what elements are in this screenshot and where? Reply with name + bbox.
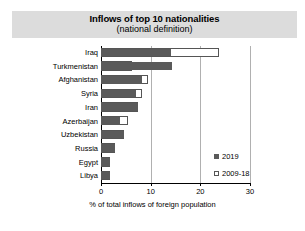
chart-subtitle: (national definition): [116, 25, 192, 34]
bar-2019: [101, 76, 142, 84]
x-tick-label: 10: [139, 187, 163, 196]
bar-2019: [101, 49, 171, 57]
category-label: Afghanistan: [8, 73, 98, 87]
legend-label: 2009-18: [222, 169, 250, 178]
category-label: Iraq: [8, 46, 98, 60]
x-axis-title: % of total inflows of foreign population: [0, 200, 305, 209]
plot-wrapper: IraqTurkmenistanAfghanistanSyriaIranAzer…: [0, 42, 305, 231]
x-tick-mark: [101, 183, 102, 186]
chart-title: Inflows of top 10 nationalities: [90, 14, 220, 24]
bar-row: [101, 46, 250, 60]
bar-2019: [101, 62, 172, 70]
x-tick-mark: [151, 183, 152, 186]
legend-label: 2019: [222, 152, 239, 161]
gridline: [250, 46, 251, 183]
legend-item: 2019: [214, 151, 250, 162]
bar-row: [101, 60, 250, 74]
bar-2019: [101, 131, 124, 139]
category-label: Russia: [8, 142, 98, 156]
chart-figure: Inflows of top 10 nationalities (nationa…: [0, 0, 305, 231]
bar-row: [101, 87, 250, 101]
bar-row: [101, 128, 250, 142]
legend-swatch-icon: [214, 154, 219, 159]
x-tick-label: 30: [238, 187, 262, 196]
chart-legend: 20192009-18: [214, 151, 250, 185]
legend-swatch-icon: [214, 171, 219, 176]
category-label: Turkmenistan: [8, 60, 98, 74]
bar-2019: [101, 172, 110, 180]
bar-row: [101, 73, 250, 87]
category-label: Syria: [8, 87, 98, 101]
x-tick-mark: [250, 183, 251, 186]
bar-2019: [101, 158, 110, 166]
bar-row: [101, 115, 250, 129]
bar-2019: [101, 103, 138, 111]
category-label: Azerbaijan: [8, 115, 98, 129]
bar-2019: [101, 144, 115, 152]
x-tick-mark: [200, 183, 201, 186]
category-label: Uzbekistan: [8, 128, 98, 142]
bar-row: [101, 101, 250, 115]
category-label: Libya: [8, 169, 98, 183]
x-tick-label: 20: [188, 187, 212, 196]
category-label: Iran: [8, 101, 98, 115]
legend-item: 2009-18: [214, 168, 250, 179]
category-label: Egypt: [8, 156, 98, 170]
bar-2019: [101, 117, 120, 125]
bar-2019: [101, 90, 136, 98]
chart-title-band: Inflows of top 10 nationalities (nationa…: [12, 11, 297, 38]
x-tick-label: 0: [89, 187, 113, 196]
